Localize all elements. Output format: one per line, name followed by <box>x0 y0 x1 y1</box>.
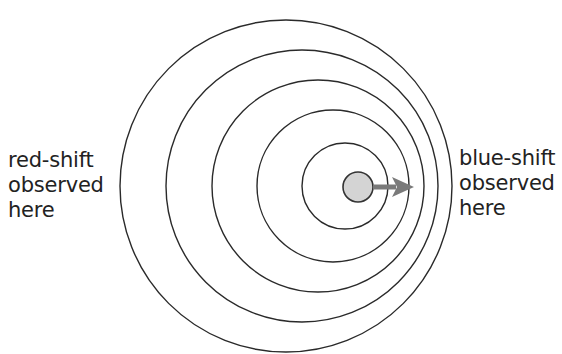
blue-shift-label-line-1: blue-shift <box>459 146 555 171</box>
motion-arrow <box>373 177 414 197</box>
moving-source <box>343 172 373 202</box>
red-shift-label: red-shift observed here <box>8 148 104 223</box>
red-shift-label-line-3: here <box>8 198 104 223</box>
source-ball <box>343 172 373 202</box>
red-shift-label-line-1: red-shift <box>8 148 104 173</box>
red-shift-label-line-2: observed <box>8 173 104 198</box>
blue-shift-label: blue-shift observed here <box>459 146 555 221</box>
blue-shift-label-line-2: observed <box>459 171 555 196</box>
blue-shift-label-line-3: here <box>459 196 555 221</box>
